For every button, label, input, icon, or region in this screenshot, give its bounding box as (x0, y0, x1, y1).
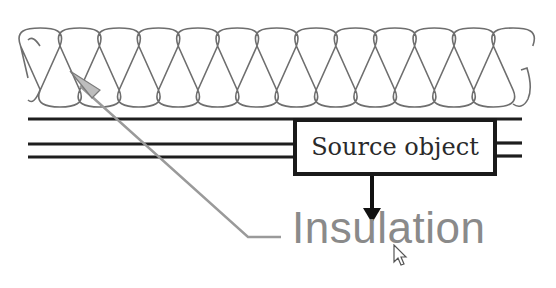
leader-arrowhead-icon (70, 71, 100, 98)
insulation-hatch-pattern (19, 28, 534, 107)
mouse-cursor-icon (393, 244, 409, 268)
source-object-box[interactable]: Source object (293, 118, 497, 176)
leader-line (70, 71, 281, 237)
insulation-text[interactable]: Insulation (292, 206, 485, 250)
source-object-label: Source object (311, 133, 479, 161)
